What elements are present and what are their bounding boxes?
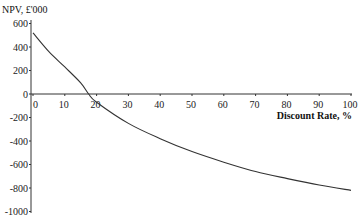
x-tick-label: 90 — [313, 99, 323, 110]
x-tick-label: 70 — [250, 99, 260, 110]
x-tick-label: 50 — [186, 99, 196, 110]
y-axis-title: NPV, £'000 — [2, 4, 48, 15]
y-tick-label: -200 — [10, 112, 28, 123]
y-tick-label: -600 — [10, 159, 28, 170]
x-tick-label: 100 — [343, 99, 358, 110]
y-tick-label: 0 — [23, 89, 28, 100]
y-tick-label: 400 — [13, 42, 28, 53]
npv-chart: NPV, £'000 6004002000-200-400-600-800-10… — [0, 0, 361, 222]
x-axis-title: Discount Rate, % — [277, 110, 352, 121]
y-tick-label: 600 — [13, 18, 28, 29]
y-tick-label: -400 — [10, 136, 28, 147]
x-tick-label: 30 — [122, 99, 132, 110]
x-tick-label: 40 — [154, 99, 164, 110]
y-tick-labels: 6004002000-200-400-600-800-1000 — [5, 18, 31, 217]
x-tick-label: 10 — [59, 99, 69, 110]
x-tick-labels: 0102030405060708090100 — [33, 94, 358, 110]
x-tick-label: 60 — [218, 99, 228, 110]
y-tick-label: -800 — [10, 183, 28, 194]
x-tick-label: 80 — [281, 99, 291, 110]
y-tick-label: -1000 — [5, 206, 28, 217]
y-tick-label: 200 — [13, 65, 28, 76]
x-tick-label: 0 — [33, 99, 38, 110]
